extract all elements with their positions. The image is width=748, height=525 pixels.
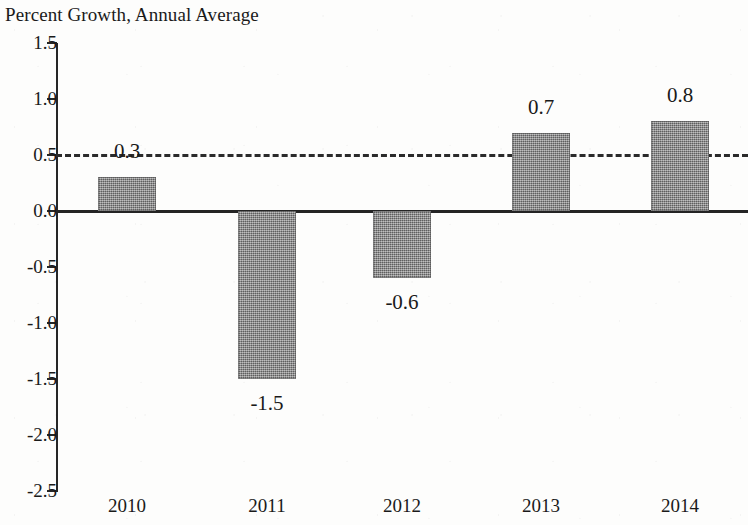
y-axis-tick-label: -1.0 — [13, 313, 57, 332]
bar-2011 — [238, 211, 296, 379]
x-axis-tick-label-2011: 2011 — [208, 496, 326, 515]
bar-value-label-2013: 0.7 — [482, 97, 600, 118]
bar-2013 — [512, 133, 570, 211]
bar-value-label-2011: -1.5 — [208, 393, 326, 414]
y-axis-tick-label: -2.0 — [13, 425, 57, 444]
y-axis-tick-label: -0.5 — [13, 257, 57, 276]
bar-2012 — [373, 211, 431, 278]
bar-chart-figure: Percent Growth, Annual Average 1.51.00.5… — [0, 0, 748, 525]
y-axis-tick-label: 0.5 — [13, 145, 57, 164]
x-axis-tick-label-2013: 2013 — [482, 496, 600, 515]
x-axis-tick-label-2012: 2012 — [343, 496, 461, 515]
bar-value-label-2012: -0.6 — [343, 292, 461, 313]
x-axis-tick-label-2014: 2014 — [621, 496, 739, 515]
y-axis-tick-label: -1.5 — [13, 369, 57, 388]
y-axis-tick-label: 0.0 — [13, 201, 57, 220]
plot-area: 1.51.00.50.0-0.5-1.0-1.5-2.0-2.5 0.3-1.5… — [0, 0, 748, 525]
y-axis-tick-label: -2.5 — [13, 481, 57, 500]
x-axis-tick-label-2010: 2010 — [68, 496, 186, 515]
y-axis-tick-label: 1.5 — [13, 33, 57, 52]
bar-2014 — [651, 121, 709, 211]
bar-value-label-2010: 0.3 — [68, 141, 186, 162]
bar-2010 — [98, 177, 156, 211]
bar-value-label-2014: 0.8 — [621, 85, 739, 106]
y-axis-tick-label: 1.0 — [13, 89, 57, 108]
